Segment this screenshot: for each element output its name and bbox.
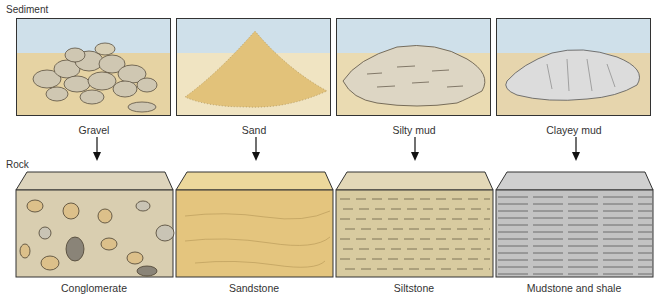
arrow-down-icon [92,137,102,161]
sand-illustration [176,18,331,116]
caption-silty-mud: Silty mud [334,124,494,136]
silty-mud-illustration [336,18,491,116]
sediment-row-label: Sediment [6,4,48,15]
conglomerate-block [15,171,177,279]
clayey-mud-illustration [496,18,651,116]
caption-sand: Sand [174,124,334,136]
mudstone-shale-block [495,171,657,279]
siltstone-block [335,171,497,279]
caption-conglomerate: Conglomerate [14,282,174,294]
caption-siltstone: Siltstone [334,282,494,294]
arrow-down-icon [410,137,420,161]
caption-clayey-mud: Clayey mud [494,124,654,136]
caption-mudstone-shale: Mudstone and shale [494,282,654,294]
arrow-down-icon [251,137,261,161]
sandstone-block [175,171,337,279]
gravel-illustration [16,18,171,116]
rock-row-label: Rock [6,159,29,170]
caption-sandstone: Sandstone [174,282,334,294]
arrow-down-icon [571,137,581,161]
caption-gravel: Gravel [14,124,174,136]
